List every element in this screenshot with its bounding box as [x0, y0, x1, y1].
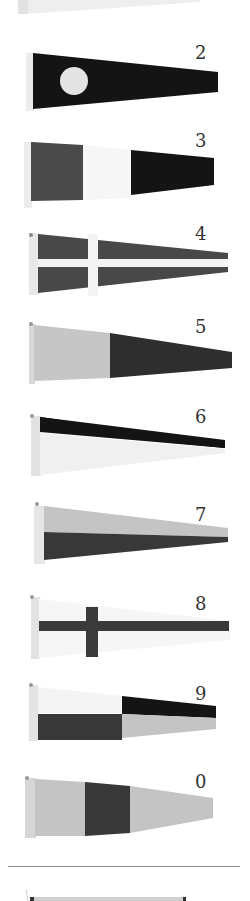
numeral-label: 0 [195, 773, 206, 791]
pennant-5: 5 [0, 318, 250, 388]
pennant-9-graphic [0, 680, 250, 750]
pennant-3-graphic [0, 130, 250, 210]
pennant-0: 0 [0, 770, 250, 840]
pennant-9: 9 [0, 680, 250, 750]
numeral-label: 6 [195, 408, 206, 426]
pennant-5-graphic [0, 318, 250, 388]
numeral-label: 4 [195, 225, 206, 243]
pennant-6-graphic [0, 408, 250, 478]
pennant-7: 7 [0, 500, 250, 570]
pennant-4-graphic [0, 225, 250, 300]
numeral-label: 5 [195, 318, 206, 336]
pennant-0-graphic [0, 770, 250, 840]
pennant-8-graphic [0, 595, 250, 665]
pennant-1 [0, 0, 250, 20]
numeral-label: 9 [195, 685, 206, 703]
pennant-2: 2 [0, 40, 250, 120]
pennant-8: 8 [0, 595, 250, 665]
pennant-3: 3 [0, 130, 250, 210]
section-divider [8, 866, 240, 867]
partial-pennant-graphic [0, 885, 250, 901]
pennant-1-graphic [0, 0, 250, 20]
pennant-6: 6 [0, 408, 250, 478]
pennant-7-graphic [0, 500, 250, 570]
numeral-label: 8 [195, 595, 206, 613]
numeral-label: 2 [195, 44, 206, 62]
pennant-4: 4 [0, 225, 250, 300]
pennant-2-graphic [0, 40, 250, 120]
numeral-label: 3 [195, 132, 206, 150]
numeral-label: 7 [195, 506, 206, 524]
circle-emblem [60, 67, 88, 95]
pennant-partial-bottom [0, 885, 250, 901]
